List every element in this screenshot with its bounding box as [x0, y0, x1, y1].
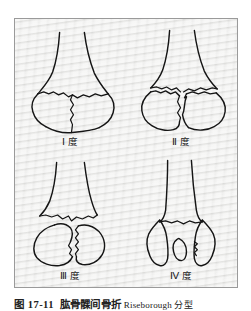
panel-label-grade-4: Ⅳ 度 — [170, 272, 193, 288]
humerus-diagram-grade-3 — [15, 153, 126, 272]
panel-grade-1: Ⅰ 度 — [15, 19, 126, 153]
humerus-diagram-grade-2 — [126, 19, 237, 138]
panel-grade-3: Ⅲ 度 — [15, 153, 126, 287]
caption-tail: Riseborough 分型 — [124, 300, 193, 310]
figure-plate: Ⅰ 度 — [14, 18, 238, 288]
panel-grade-2: Ⅱ 度 — [126, 19, 237, 153]
panel-grid: Ⅰ 度 — [15, 19, 237, 287]
panel-label-grade-3: Ⅲ 度 — [60, 272, 81, 288]
caption-title: 肱骨髁间骨折 — [60, 299, 121, 310]
panel-label-grade-1: Ⅰ 度 — [62, 138, 79, 154]
figure-caption: 图 17-11 肱骨髁间骨折 Riseborough 分型 — [14, 296, 251, 311]
humerus-diagram-grade-4 — [126, 153, 237, 272]
caption-number: 图 17-11 — [14, 299, 54, 310]
panel-label-grade-2: Ⅱ 度 — [172, 138, 191, 154]
humerus-diagram-grade-1 — [15, 19, 126, 138]
panel-grade-4: Ⅳ 度 — [126, 153, 237, 287]
